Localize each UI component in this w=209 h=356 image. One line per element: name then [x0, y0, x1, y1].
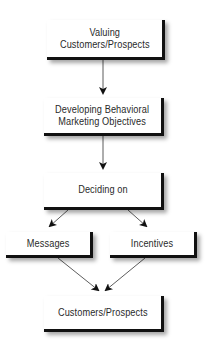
node-label: Deciding on — [78, 184, 128, 196]
arrow-messages-to-customers — [58, 258, 98, 290]
node-label: Valuing Customers/Prospects — [60, 27, 150, 51]
node-label: Customers/Prospects — [58, 307, 148, 319]
node-customers-prospects: Customers/Prospects — [44, 296, 164, 332]
node-incentives: Incentives — [110, 232, 197, 258]
node-behavioral-objectives: Developing Behavioral Marketing Objectiv… — [44, 98, 164, 136]
node-label: Developing Behavioral Marketing Objectiv… — [55, 104, 149, 128]
node-messages: Messages — [6, 232, 93, 258]
node-label: Messages — [27, 238, 70, 250]
arrow-deciding-to-incentives — [128, 210, 146, 226]
arrow-deciding-to-messages — [50, 210, 68, 226]
node-valuing-customers: Valuing Customers/Prospects — [47, 20, 165, 60]
arrow-incentives-to-customers — [106, 258, 145, 290]
node-label: Incentives — [131, 238, 173, 250]
node-deciding-on: Deciding on — [44, 173, 164, 210]
